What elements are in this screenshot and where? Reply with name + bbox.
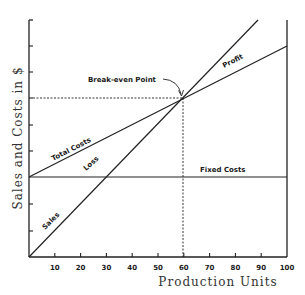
x-tick-label: 20 bbox=[76, 264, 86, 272]
x-tick-label: 100 bbox=[280, 264, 295, 272]
x-tick-label: 80 bbox=[231, 264, 241, 272]
x-tick-label: 10 bbox=[50, 264, 60, 272]
y-axis-title: Sales and Costs in $ bbox=[11, 66, 25, 209]
sales-line bbox=[29, 20, 258, 257]
loss-label: Loss bbox=[82, 155, 100, 173]
x-axis-title: Production Units bbox=[158, 275, 277, 289]
break-even-chart: 10 20 30 40 50 60 70 80 90 100 Break-eve… bbox=[0, 0, 305, 295]
x-tick-label: 90 bbox=[256, 264, 266, 272]
sales-label: Sales bbox=[41, 211, 62, 232]
x-tick-label: 70 bbox=[205, 264, 215, 272]
x-tick-labels: 10 20 30 40 50 60 70 80 90 100 bbox=[50, 264, 295, 272]
x-tick-label: 30 bbox=[102, 264, 112, 272]
total-costs-line bbox=[29, 46, 287, 177]
x-tick-label: 60 bbox=[179, 264, 189, 272]
break-even-arrow bbox=[163, 79, 181, 94]
total-costs-label: Total Costs bbox=[50, 136, 92, 163]
break-even-label: Break-even Point bbox=[88, 76, 157, 84]
fixed-costs-label: Fixed Costs bbox=[200, 166, 246, 174]
x-tick-label: 40 bbox=[127, 264, 137, 272]
x-tick-label: 50 bbox=[153, 264, 163, 272]
